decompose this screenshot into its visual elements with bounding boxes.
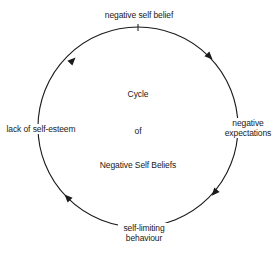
center-title-line-1: Cycle — [110, 89, 166, 99]
arrow-upper-left-icon — [67, 55, 78, 66]
center-title-line-3: Negative Self Beliefs — [86, 160, 190, 170]
node-self-limiting-behaviour: self-limiting behaviour — [118, 223, 170, 243]
node-label: lack of self-esteem — [7, 124, 76, 134]
center-title-line-2: of — [130, 126, 146, 136]
cycle-diagram: negative self belief negative expectatio… — [0, 0, 275, 256]
arrow-lower-right-icon — [209, 187, 220, 198]
node-label-line: behaviour — [118, 233, 170, 243]
node-lack-of-self-esteem: lack of self-esteem — [4, 124, 78, 134]
node-label-line: expectations — [222, 128, 274, 138]
node-label-line: negative — [222, 118, 274, 128]
node-label-line: self-limiting — [118, 223, 170, 233]
node-label: negative self belief — [105, 10, 173, 20]
node-negative-expectations: negative expectations — [222, 118, 274, 138]
node-negative-self-belief: negative self belief — [96, 10, 182, 20]
